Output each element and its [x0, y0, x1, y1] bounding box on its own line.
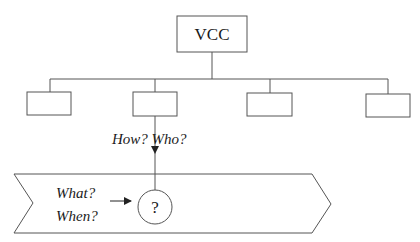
- root-label: VCC: [195, 25, 230, 44]
- what-label: What?: [56, 185, 96, 201]
- down-arrowhead-icon: [151, 146, 159, 154]
- child-box-3: [247, 93, 292, 116]
- vcc-diagram: VCC How? Who? ? What? When?: [0, 0, 420, 242]
- when-label: When?: [56, 208, 98, 224]
- process-chevron: [14, 174, 331, 233]
- question-node-label: ?: [151, 198, 159, 217]
- child-box-2: [133, 92, 177, 116]
- how-who-label: How? Who?: [111, 131, 187, 147]
- child-box-1: [27, 92, 71, 115]
- child-box-4: [366, 94, 410, 117]
